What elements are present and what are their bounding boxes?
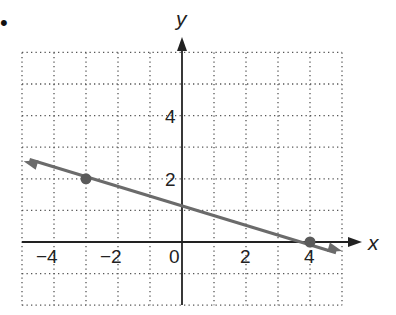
coordinate-plane: • x y −4−202424 — [0, 0, 396, 315]
x-tick-label: 2 — [240, 246, 251, 267]
x-axis-arrow-icon — [348, 237, 362, 247]
x-tick-label: −2 — [100, 246, 122, 267]
line-arrow-icon — [327, 242, 342, 252]
x-axis-label: x — [367, 231, 380, 254]
y-axis-arrow-icon — [177, 37, 187, 51]
data-point — [81, 173, 92, 184]
data-point — [305, 237, 316, 248]
x-tick-label: 4 — [304, 246, 315, 267]
bullet-marker: • — [0, 10, 8, 35]
y-tick-label: 2 — [165, 169, 176, 190]
y-axis-label: y — [174, 7, 188, 30]
x-tick-label: −4 — [36, 246, 58, 267]
y-tick-label: 4 — [165, 106, 176, 127]
x-tick-label: 0 — [169, 246, 180, 267]
line-arrow-icon — [24, 160, 39, 170]
axes: x y — [22, 7, 380, 305]
